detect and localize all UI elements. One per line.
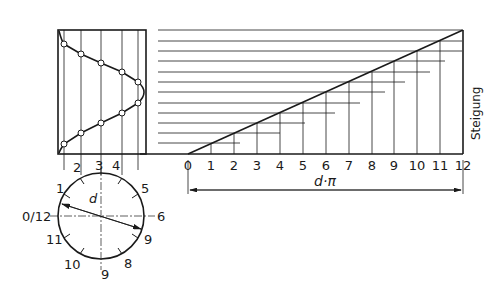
diameter-label: d [89, 191, 98, 206]
tick-8: 8 [368, 158, 376, 173]
circle-label-4: 4 [112, 158, 120, 173]
baseline-tick-labels: 0 1 2 3 4 5 6 7 8 9 10 11 12 [184, 158, 471, 173]
tick-9: 9 [390, 158, 398, 173]
tick-11: 11 [432, 158, 449, 173]
circle-label-8: 8 [124, 256, 132, 271]
circle-label-3: 3 [95, 158, 103, 173]
circle-label-5: 5 [141, 181, 149, 196]
tick-12: 12 [455, 158, 472, 173]
circumference-label: d·π [314, 173, 336, 189]
side-view [58, 30, 146, 175]
circle-label-11: 11 [46, 232, 63, 247]
projection-lines [158, 30, 462, 143]
circle-label-10: 10 [64, 257, 81, 272]
circle-label-lower-right: 9 [144, 232, 152, 247]
tick-6: 6 [322, 158, 330, 173]
tick-1: 1 [207, 158, 215, 173]
tick-2: 2 [230, 158, 238, 173]
circle-label-2: 2 [73, 160, 81, 175]
tick-5: 5 [299, 158, 307, 173]
tick-4: 4 [276, 158, 284, 173]
circle-label-1: 1 [56, 181, 64, 196]
tick-3: 3 [253, 158, 261, 173]
lead-label: Steigung [469, 87, 483, 140]
tick-10: 10 [409, 158, 426, 173]
helix-diagram: 0 1 2 3 4 5 6 7 8 9 10 11 12 d·π Steigun… [0, 0, 497, 291]
circle-view [50, 168, 155, 270]
circle-label-bottom: 9 [101, 267, 109, 282]
circle-label-0-12: 0/12 [22, 209, 51, 224]
tick-0: 0 [184, 158, 192, 173]
tick-7: 7 [345, 158, 353, 173]
circle-label-6: 6 [157, 209, 165, 224]
